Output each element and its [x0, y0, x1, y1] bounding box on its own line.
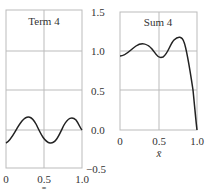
svg-text:1.0: 1.0: [91, 45, 105, 57]
right-title: Sum 4: [144, 16, 173, 28]
svg-text:1.5: 1.5: [91, 6, 105, 18]
svg-text:0.0: 0.0: [91, 124, 105, 136]
svg-text:−0.5: −0.5: [86, 163, 106, 175]
svg-text:1.0: 1.0: [190, 135, 204, 147]
chart-figure: Term 4 0 0.5 1.0 = 1.5 1.0 0.5 0.0 −0.5 …: [0, 0, 205, 191]
svg-text:=: =: [42, 184, 47, 191]
svg-text:0.5: 0.5: [152, 135, 166, 147]
svg-text:0.5: 0.5: [91, 85, 105, 97]
left-title: Term 4: [28, 15, 60, 27]
svg-text:0: 0: [117, 135, 123, 147]
svg-text:x̄: x̄: [156, 147, 162, 159]
left-panel: Term 4 0 0.5 1.0 =: [3, 10, 89, 191]
svg-text:0: 0: [3, 173, 9, 185]
y-axis-labels: 1.5 1.0 0.5 0.0 −0.5: [86, 6, 106, 175]
right-panel: Sum 4 0 0.5 1.0 x̄: [117, 12, 204, 159]
